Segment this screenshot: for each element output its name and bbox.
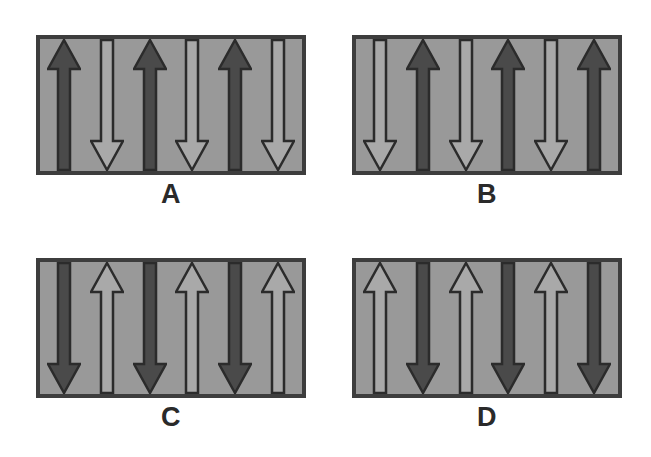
arrow-slot xyxy=(444,39,487,171)
arrow-slot xyxy=(256,39,299,171)
dark-up-arrow-shape xyxy=(134,40,166,170)
dark-up-arrow-shape xyxy=(578,40,610,170)
dark-down-arrow-shape xyxy=(48,263,80,393)
dark-up-arrow xyxy=(577,39,611,171)
arrow-slot xyxy=(128,262,171,394)
light-up-arrow xyxy=(449,262,483,394)
dark-up-arrow xyxy=(491,39,525,171)
panel-b-label: B xyxy=(477,181,497,208)
dark-up-arrow-shape xyxy=(492,40,524,170)
light-up-arrow-shape xyxy=(262,263,294,393)
light-up-arrow xyxy=(175,262,209,394)
dark-up-arrow xyxy=(133,39,167,171)
arrow-slot xyxy=(359,39,402,171)
arrow-slot xyxy=(43,39,86,171)
arrow-slot xyxy=(43,262,86,394)
dark-down-arrow-shape xyxy=(492,263,524,393)
light-down-arrow-shape xyxy=(364,40,396,170)
light-down-arrow-shape xyxy=(262,40,294,170)
panel-d-label: D xyxy=(477,404,497,431)
arrow-slot xyxy=(530,262,573,394)
panel-b-box xyxy=(352,35,622,175)
arrow-slot xyxy=(402,262,445,394)
arrow-panels-figure: A B C D xyxy=(0,0,651,457)
light-down-arrow-shape xyxy=(450,40,482,170)
light-down-arrow-shape xyxy=(535,40,567,170)
dark-down-arrow xyxy=(577,262,611,394)
arrow-slot xyxy=(572,262,615,394)
dark-up-arrow-shape xyxy=(219,40,251,170)
light-down-arrow xyxy=(261,39,295,171)
light-down-arrow xyxy=(363,39,397,171)
panel-c-label: C xyxy=(161,404,181,431)
light-down-arrow xyxy=(449,39,483,171)
dark-up-arrow-shape xyxy=(48,40,80,170)
panel-a: A xyxy=(36,35,306,208)
arrow-slot xyxy=(444,262,487,394)
arrow-slot xyxy=(171,39,214,171)
light-up-arrow-shape xyxy=(450,263,482,393)
dark-down-arrow xyxy=(218,262,252,394)
panel-d-box xyxy=(352,258,622,398)
light-up-arrow-shape xyxy=(176,263,208,393)
arrow-slot xyxy=(402,39,445,171)
light-up-arrow-shape xyxy=(364,263,396,393)
dark-up-arrow xyxy=(218,39,252,171)
arrow-slot xyxy=(256,262,299,394)
light-up-arrow xyxy=(363,262,397,394)
arrow-slot xyxy=(214,262,257,394)
arrow-slot xyxy=(487,39,530,171)
dark-down-arrow xyxy=(47,262,81,394)
dark-down-arrow-shape xyxy=(134,263,166,393)
light-down-arrow xyxy=(175,39,209,171)
dark-down-arrow xyxy=(133,262,167,394)
light-up-arrow-shape xyxy=(535,263,567,393)
dark-down-arrow-shape xyxy=(578,263,610,393)
light-up-arrow xyxy=(534,262,568,394)
dark-up-arrow xyxy=(406,39,440,171)
arrow-slot xyxy=(214,39,257,171)
light-down-arrow xyxy=(90,39,124,171)
arrow-slot xyxy=(86,262,129,394)
light-up-arrow-shape xyxy=(91,263,123,393)
light-up-arrow xyxy=(261,262,295,394)
arrow-slot xyxy=(359,262,402,394)
light-down-arrow xyxy=(534,39,568,171)
arrow-slot xyxy=(128,39,171,171)
dark-down-arrow-shape xyxy=(219,263,251,393)
light-down-arrow-shape xyxy=(176,40,208,170)
dark-down-arrow xyxy=(406,262,440,394)
dark-down-arrow-shape xyxy=(407,263,439,393)
panel-d: D xyxy=(352,258,622,431)
panel-a-box xyxy=(36,35,306,175)
light-up-arrow xyxy=(90,262,124,394)
panel-c: C xyxy=(36,258,306,431)
arrow-slot xyxy=(487,262,530,394)
dark-up-arrow-shape xyxy=(407,40,439,170)
arrow-slot xyxy=(530,39,573,171)
arrow-slot xyxy=(86,39,129,171)
dark-down-arrow xyxy=(491,262,525,394)
arrow-slot xyxy=(171,262,214,394)
panel-a-label: A xyxy=(161,181,181,208)
arrow-slot xyxy=(572,39,615,171)
panel-c-box xyxy=(36,258,306,398)
light-down-arrow-shape xyxy=(91,40,123,170)
panel-b: B xyxy=(352,35,622,208)
dark-up-arrow xyxy=(47,39,81,171)
